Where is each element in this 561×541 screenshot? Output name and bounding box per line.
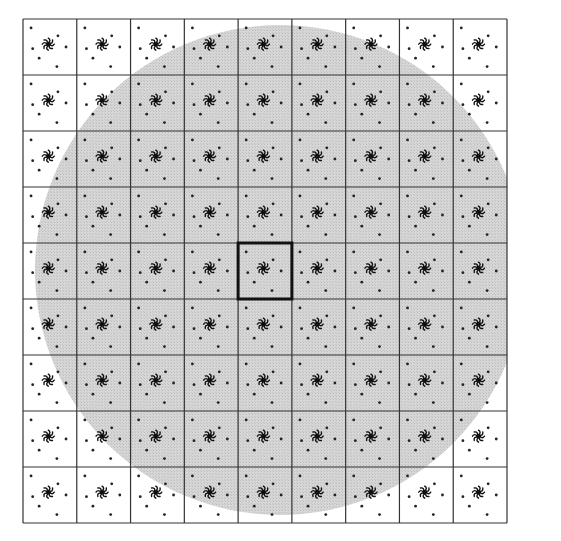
lattice-dot: [92, 281, 95, 284]
lattice-dot: [218, 426, 221, 429]
lattice-dot: [246, 383, 249, 386]
lattice-dot: [245, 307, 248, 310]
pinwheel-icon: [42, 38, 54, 50]
lattice-dot: [379, 146, 382, 149]
lattice-dot: [433, 370, 436, 373]
lattice-dot: [65, 494, 68, 497]
grid-cell: [406, 475, 444, 516]
lattice-dot: [163, 345, 166, 348]
lattice-dot: [441, 494, 444, 497]
lattice-dot: [55, 233, 58, 236]
lattice-dot: [55, 513, 58, 516]
lattice-dot: [85, 215, 88, 218]
lattice-dot: [38, 337, 41, 340]
lattice-dot: [30, 475, 33, 478]
lattice-dot: [271, 513, 274, 516]
lattice-dot: [85, 327, 88, 330]
grid-cell: [460, 475, 498, 516]
lattice-dot: [30, 419, 33, 422]
lattice-dot: [387, 382, 390, 385]
lattice-dot: [226, 270, 229, 273]
lattice-dot: [379, 426, 382, 429]
lattice-dot: [139, 439, 142, 442]
lattice-dot: [55, 401, 58, 404]
lattice-dot: [468, 169, 471, 172]
lattice-dot: [414, 113, 417, 116]
lattice-dot: [360, 169, 363, 172]
lattice-dot: [191, 251, 194, 254]
lattice-dot: [432, 121, 435, 124]
lattice-dot: [441, 326, 444, 329]
lattice-dot: [83, 419, 86, 422]
lattice-dot: [109, 401, 112, 404]
lattice-dot: [468, 57, 471, 60]
lattice-dot: [462, 439, 465, 442]
lattice-dot: [65, 214, 68, 217]
lattice-dot: [30, 83, 33, 86]
lattice-dot: [378, 457, 381, 460]
lattice-dot: [163, 177, 166, 180]
lattice-dot: [55, 177, 58, 180]
lattice-dot: [272, 202, 275, 205]
lattice-dot: [145, 113, 148, 116]
lattice-dot: [414, 225, 417, 228]
lattice-dot: [300, 47, 303, 50]
lattice-dot: [325, 34, 328, 37]
lattice-dot: [414, 449, 417, 452]
lattice-dot: [118, 270, 121, 273]
lattice-dot: [199, 57, 202, 60]
lattice-dot: [406, 363, 409, 366]
lattice-dot: [307, 449, 310, 452]
lattice-dot: [92, 505, 95, 508]
lattice-dot: [217, 289, 220, 292]
lattice-dot: [352, 83, 355, 86]
lattice-dot: [307, 57, 310, 60]
lattice-dot: [139, 383, 142, 386]
lattice-dot: [191, 475, 194, 478]
lattice-dot: [354, 495, 357, 498]
lattice-dot: [325, 90, 328, 93]
lattice-dot: [433, 482, 436, 485]
pinwheel-icon: [42, 486, 54, 498]
lattice-dot: [38, 113, 41, 116]
lattice-dot: [280, 158, 283, 161]
lattice-dot: [299, 195, 302, 198]
lattice-dot: [408, 383, 411, 386]
lattice-dot: [85, 159, 88, 162]
pinwheel-icon: [472, 38, 484, 50]
lattice-dot: [495, 326, 498, 329]
lattice-dot: [38, 393, 41, 396]
lattice-dot: [163, 233, 166, 236]
lattice-dot: [354, 439, 357, 442]
lattice-dot: [352, 139, 355, 142]
pinwheel-icon: [472, 94, 484, 106]
lattice-dot: [137, 27, 140, 30]
lattice-dot: [354, 327, 357, 330]
lattice-dot: [271, 65, 274, 68]
lattice-dot: [139, 495, 142, 498]
lattice-dot: [325, 314, 328, 317]
lattice-dot: [55, 121, 58, 124]
lattice-dot: [495, 438, 498, 441]
lattice-dot: [217, 457, 220, 460]
lattice-dot: [487, 314, 490, 317]
lattice-dot: [83, 139, 86, 142]
lattice-dot: [487, 34, 490, 37]
lattice-dot: [379, 314, 382, 317]
lattice-dot: [191, 139, 194, 142]
lattice-dot: [307, 505, 310, 508]
lattice-dot: [163, 65, 166, 68]
lattice-dot: [30, 195, 33, 198]
grid-cell: [30, 475, 68, 516]
lattice-dot: [139, 103, 142, 106]
lattice-dot: [352, 475, 355, 478]
lattice-dot: [110, 90, 113, 93]
lattice-dot: [65, 46, 68, 49]
lattice-dot: [172, 46, 175, 49]
lattice-dot: [172, 382, 175, 385]
lattice-dot: [172, 326, 175, 329]
lattice-dot: [218, 90, 221, 93]
lattice-dot: [145, 57, 148, 60]
lattice-dot: [145, 169, 148, 172]
lattice-dot: [57, 202, 60, 205]
